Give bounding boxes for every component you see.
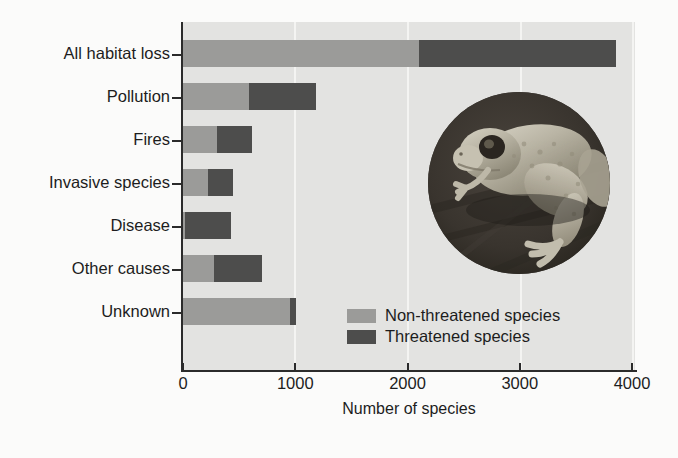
y-axis-tick <box>172 54 182 56</box>
y-axis-tick <box>172 312 182 314</box>
chart-legend: Non-threatened species Threatened specie… <box>347 305 560 347</box>
y-axis-category-label: All habitat loss <box>0 44 170 63</box>
x-axis-line <box>181 370 637 372</box>
bar-segment-threatened <box>185 212 230 239</box>
gridline-4000 <box>632 22 634 370</box>
x-axis-tick <box>631 363 633 372</box>
legend-item-non-threatened: Non-threatened species <box>347 305 560 326</box>
x-axis-tick-label: 2000 <box>389 374 426 393</box>
frog-photo-illustration <box>428 92 610 274</box>
bar-segment-non-threatened <box>183 40 419 67</box>
x-axis-title: Number of species <box>183 400 635 418</box>
frog-photo-inset <box>428 92 610 274</box>
x-axis-tick-label: 1000 <box>277 374 314 393</box>
y-axis-category-label: Disease <box>0 216 170 235</box>
x-axis-tick <box>519 363 521 372</box>
bar-segment-threatened <box>290 298 297 325</box>
bar-segment-threatened <box>217 126 252 153</box>
x-axis-tick <box>407 363 409 372</box>
x-axis-tick-label: 4000 <box>614 374 651 393</box>
y-axis-category-label: Fires <box>0 130 170 149</box>
y-axis-tick <box>172 269 182 271</box>
bar-segment-non-threatened <box>183 126 217 153</box>
y-axis-category-labels: All habitat lossPollutionFiresInvasive s… <box>0 0 170 458</box>
legend-swatch-non-threatened <box>347 309 376 323</box>
y-axis-category-label: Other causes <box>0 259 170 278</box>
legend-item-threatened: Threatened species <box>347 326 560 347</box>
y-axis-category-label: Unknown <box>0 302 170 321</box>
y-axis-tick <box>172 140 182 142</box>
y-axis-category-label: Invasive species <box>0 173 170 192</box>
y-axis-tick <box>172 226 182 228</box>
x-axis-tick <box>294 363 296 372</box>
bar-segment-threatened <box>419 40 616 67</box>
bar-segment-threatened <box>214 255 262 282</box>
y-axis-category-label: Pollution <box>0 87 170 106</box>
legend-label-non-threatened: Non-threatened species <box>385 306 560 325</box>
bar-segment-non-threatened <box>183 169 208 196</box>
chart-figure: All habitat lossPollutionFiresInvasive s… <box>0 0 678 458</box>
legend-swatch-threatened <box>347 330 376 344</box>
bar-segment-non-threatened <box>183 255 214 282</box>
bar-segment-threatened <box>208 169 233 196</box>
y-axis-tick <box>172 183 182 185</box>
bar-segment-non-threatened <box>183 298 290 325</box>
x-axis-tick <box>182 363 184 372</box>
bar-segment-non-threatened <box>183 83 249 110</box>
bar-segment-threatened <box>249 83 317 110</box>
y-axis-tick <box>172 97 182 99</box>
x-axis-tick-label: 0 <box>178 374 187 393</box>
y-axis-line <box>181 22 183 372</box>
x-axis-tick-label: 3000 <box>501 374 538 393</box>
legend-label-threatened: Threatened species <box>385 327 530 346</box>
